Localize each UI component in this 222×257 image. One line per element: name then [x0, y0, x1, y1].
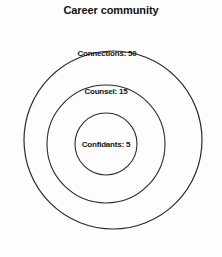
ring-label-connections: Connections: 50 [77, 49, 136, 58]
career-community-figure: Career community Connections: 50 Counsel… [0, 0, 222, 257]
concentric-rings-graphic [0, 0, 222, 257]
ring-label-counsel: Counsel: 15 [84, 87, 127, 96]
ring-label-confidants: Confidants: 5 [82, 140, 131, 149]
